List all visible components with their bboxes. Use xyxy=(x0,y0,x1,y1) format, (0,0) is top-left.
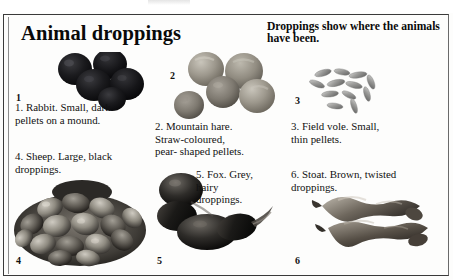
stoat-droppings-photo xyxy=(310,182,436,260)
caption-field-vole-line2: thin pellets. xyxy=(291,133,441,146)
caption-sheep-line1: 4. Sheep. Large, black xyxy=(15,150,165,163)
caption-fox: 5. Fox. Grey, hairy droppings. xyxy=(196,168,301,206)
caption-sheep-line2: droppings. xyxy=(15,163,165,176)
sheep-droppings-photo xyxy=(10,178,150,268)
photo-number-4: 4 xyxy=(16,255,21,266)
caption-fox-line2: hairy xyxy=(196,181,301,194)
caption-sheep: 4. Sheep. Large, black droppings. xyxy=(15,150,165,175)
caption-mountain-hare-line3: pear- shaped pellets. xyxy=(155,145,295,158)
scan-artifact xyxy=(148,0,190,5)
caption-fox-line3: droppings. xyxy=(196,193,301,206)
field-vole-droppings-photo xyxy=(305,66,387,114)
caption-rabbit-line1: 1. Rabbit. Small, dark xyxy=(15,101,155,114)
caption-stoat-line1: 6. Stoat. Brown, twisted xyxy=(291,168,446,181)
scanned-page: Animal droppings Droppings show where th… xyxy=(0,0,453,280)
photo-number-6: 6 xyxy=(295,255,300,266)
photo-number-5: 5 xyxy=(157,255,162,266)
caption-stoat: 6. Stoat. Brown, twisted droppings. xyxy=(291,168,446,193)
caption-mountain-hare: 2. Mountain hare. Straw-coloured, pear- … xyxy=(155,120,295,158)
page-title: Animal droppings xyxy=(21,22,181,45)
photo-number-3: 3 xyxy=(295,95,300,106)
caption-mountain-hare-line1: 2. Mountain hare. xyxy=(155,120,295,133)
caption-field-vole: 3. Field vole. Small, thin pellets. xyxy=(291,120,441,145)
caption-fox-line1: 5. Fox. Grey, xyxy=(196,168,301,181)
caption-stoat-line2: droppings. xyxy=(291,181,446,194)
mountain-hare-droppings-photo xyxy=(173,50,288,125)
caption-field-vole-line1: 3. Field vole. Small, xyxy=(291,120,441,133)
scan-top-margin xyxy=(0,0,453,13)
caption-rabbit: 1. Rabbit. Small, dark pellets on a moun… xyxy=(15,101,155,126)
photo-number-2: 2 xyxy=(170,70,175,81)
caption-mountain-hare-line2: Straw-coloured, xyxy=(155,133,295,146)
page-subheading: Droppings show where the animals have be… xyxy=(267,21,447,46)
caption-rabbit-line2: pellets on a mound. xyxy=(15,114,155,127)
